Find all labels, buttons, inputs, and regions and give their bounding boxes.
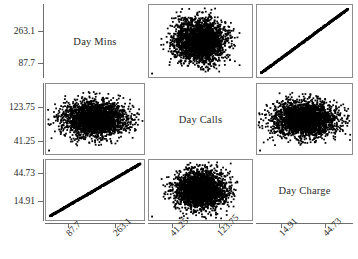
scatter-points-daymins-vs-daycharge (46, 160, 144, 220)
scatter-panel-daycalls-vs-daymins (148, 4, 253, 78)
scatter-points-daymins-vs-daycalls (46, 84, 144, 154)
scatter-panel-daymins-vs-daycalls (45, 83, 145, 155)
y-tick-row3-lower (38, 201, 43, 202)
y-tick-row1-lower (38, 63, 43, 64)
scatter-points-daycharge-vs-daycalls (257, 84, 352, 154)
y-tick-label-row2-upper: 123.75 (0, 102, 35, 112)
y-tick-row1-upper (38, 31, 43, 32)
y-tick-row2-upper (38, 107, 43, 108)
scatter-points-daycalls-vs-daycharge (149, 160, 252, 220)
y-tick-label-row3-lower: 14.91 (0, 196, 35, 206)
diagonal-label-day-calls: Day Calls (179, 114, 223, 125)
diagonal-label-day-mins: Day Mins (73, 36, 116, 47)
scatter-points-daycalls-vs-daymins (149, 5, 252, 77)
diagonal-panel-day-calls: Day Calls (148, 83, 253, 155)
y-tick-label-row3-upper: 44.73 (0, 168, 35, 178)
y-axis-row-1 (43, 4, 44, 78)
x-axis-col-2 (148, 223, 253, 224)
scatter-plot-matrix: Day Mins Day Calls Day Charge 263.1 87.7… (0, 0, 358, 259)
scatter-panel-daycharge-vs-daycalls (256, 83, 353, 155)
scatter-panel-daycalls-vs-daycharge (148, 159, 253, 221)
y-tick-row3-upper (38, 173, 43, 174)
scatter-panel-daymins-vs-daycharge (45, 159, 145, 221)
scatter-points-daycharge-vs-daymins (257, 5, 352, 77)
diagonal-panel-day-charge: Day Charge (256, 159, 353, 221)
diagonal-panel-day-mins: Day Mins (45, 4, 145, 78)
y-axis-row-2 (43, 83, 44, 155)
y-tick-label-row1-upper: 263.1 (0, 26, 35, 36)
scatter-panel-daycharge-vs-daymins (256, 4, 353, 78)
y-tick-label-row2-lower: 41.25 (0, 136, 35, 146)
y-tick-row2-lower (38, 141, 43, 142)
y-axis-row-3 (43, 159, 44, 221)
diagonal-label-day-charge: Day Charge (278, 185, 330, 196)
y-tick-label-row1-lower: 87.7 (0, 58, 35, 68)
